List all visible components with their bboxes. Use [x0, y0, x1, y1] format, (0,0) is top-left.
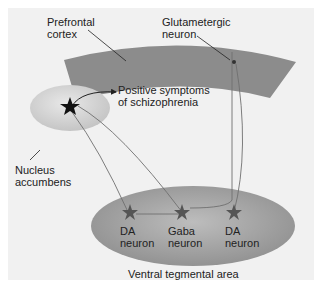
- glutamatergic-neuron-label: Glutametergic neuron: [162, 16, 230, 40]
- da-neuron-left-label: DA neuron: [120, 225, 154, 249]
- nucleus-leader: [30, 150, 40, 160]
- nucleus-accumbens-label: Nucleus accumbens: [15, 164, 71, 188]
- vta-label: Ventral tegmental area: [128, 268, 239, 280]
- da-neuron-right-label: DA neuron: [225, 225, 259, 249]
- prefrontal-cortex-label: Prefrontal cortex: [47, 16, 95, 40]
- glutamatergic-neuron-icon: [232, 60, 236, 64]
- diagram-canvas: [0, 0, 322, 288]
- positive-symptoms-label: Positive symptoms of schizophrenia: [118, 84, 210, 108]
- gaba-neuron-label: Gaba neuron: [168, 225, 202, 249]
